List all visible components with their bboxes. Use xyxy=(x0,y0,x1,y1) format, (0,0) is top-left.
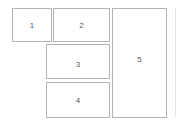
box-4-label: 4 xyxy=(76,96,80,105)
box-5: 5 xyxy=(112,8,167,118)
box-4: 4 xyxy=(46,82,110,118)
right-edge-divider xyxy=(175,8,176,118)
box-2-label: 2 xyxy=(79,21,83,30)
box-1: 1 xyxy=(12,8,52,42)
box-2: 2 xyxy=(53,8,110,42)
box-5-label: 5 xyxy=(137,55,141,64)
box-3-label: 3 xyxy=(76,60,80,69)
box-3: 3 xyxy=(46,44,110,79)
box-1-label: 1 xyxy=(30,21,34,30)
